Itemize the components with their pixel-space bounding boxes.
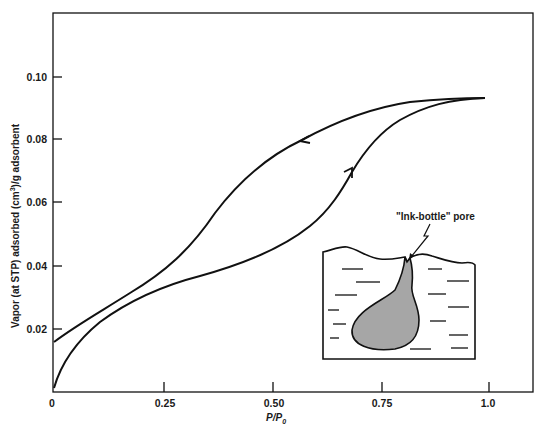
x-tick-label: 0.25 <box>155 397 176 409</box>
x-axis <box>164 382 489 392</box>
x-tick-label: 0 <box>49 397 55 409</box>
y-tick-label: 0.06 <box>27 196 48 208</box>
y-tick-label: 0.02 <box>27 323 48 335</box>
y-tick-label: 0.08 <box>27 133 48 145</box>
x-tick-label: 0.50 <box>264 397 285 409</box>
x-tick-label: 1.0 <box>481 397 496 409</box>
pointer-arrow-icon <box>411 224 430 257</box>
x-tick-label: 0.75 <box>372 397 393 409</box>
y-tick-label: 0.04 <box>27 260 48 272</box>
inset-label: "Ink-bottle" pore <box>396 211 475 222</box>
y-tick-label: 0.10 <box>27 71 48 83</box>
ink-bottle-pore-inset: "Ink-bottle" pore <box>323 211 475 359</box>
x-axis-label: P/P0 <box>266 412 286 425</box>
isotherm-chart: 0.02 0.04 0.06 0.08 0.10 0 0.25 0.50 0.7… <box>0 0 543 434</box>
y-axis <box>53 77 62 329</box>
y-axis-label: Vapor (at STP) adsorbed (cm3)/g adsorben… <box>9 123 21 328</box>
